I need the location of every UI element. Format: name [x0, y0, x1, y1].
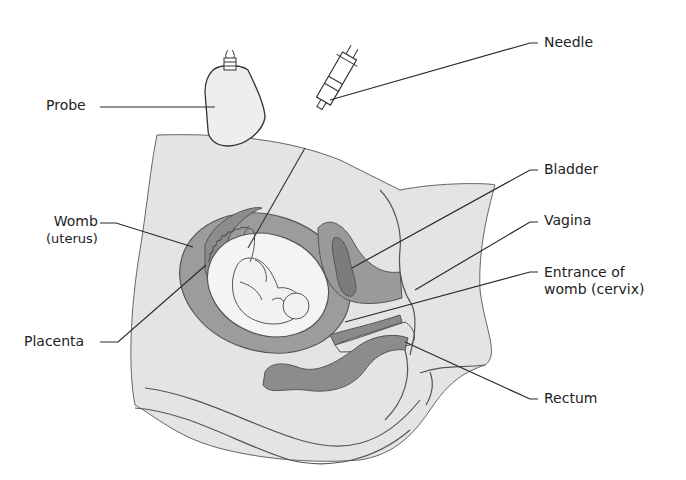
label-probe: Probe — [46, 97, 86, 114]
label-placenta: Placenta — [24, 333, 84, 350]
label-womb: Womb (uterus) — [46, 213, 98, 247]
amniocentesis-diagram — [0, 0, 686, 480]
label-vagina: Vagina — [544, 212, 591, 229]
label-rectum: Rectum — [544, 390, 597, 407]
label-womb-line2: (uterus) — [46, 230, 98, 247]
label-womb-line1: Womb — [46, 213, 98, 230]
leader-needle — [330, 43, 538, 100]
label-cervix-line2: womb (cervix) — [544, 281, 644, 298]
label-cervix: Entrance of womb (cervix) — [544, 264, 644, 298]
label-cervix-line1: Entrance of — [544, 264, 644, 281]
label-needle: Needle — [544, 34, 593, 51]
ultrasound-probe — [205, 50, 265, 146]
label-bladder: Bladder — [544, 161, 598, 178]
